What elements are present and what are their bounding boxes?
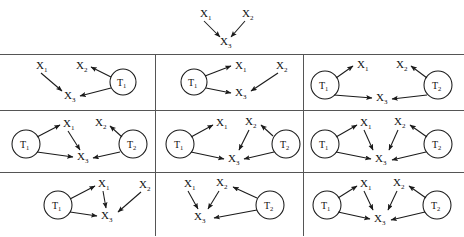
panel-2-1-label-t1: T1 xyxy=(20,139,29,151)
panel-2-3-edge-t2-x3 xyxy=(392,152,426,160)
figure-root: X1 X2 X3 X1 X2 X3 T1 xyxy=(0,0,464,236)
panel-2-2-edge-t2-x2 xyxy=(261,125,273,136)
panel-3-2-node-x2: X2 xyxy=(216,176,228,191)
panel-2-1-node-x1: X1 xyxy=(63,117,75,132)
panel-1-2-edge-t1-x3 xyxy=(206,88,231,93)
panel-1-2-node-x1: X1 xyxy=(235,59,247,74)
header-graph: X1 X2 X3 xyxy=(200,7,254,50)
panel-1-1-node-x2: X2 xyxy=(76,59,88,74)
panel-3-1-node-x2: X2 xyxy=(139,178,151,193)
panel-3-3-node-x3: X3 xyxy=(374,212,386,227)
panel-2-1-label-t2: T2 xyxy=(127,139,136,151)
panel-2-3: T1 T2 X1 X2 X3 xyxy=(311,115,452,167)
panel-1-3-label-t1: T1 xyxy=(319,80,328,92)
panel-3-3-edge-x1-x3 xyxy=(364,191,373,210)
panel-2-2-edge-t2-x3 xyxy=(244,152,274,159)
panel-3-2-edge-x1-x3 xyxy=(188,191,198,209)
panel-2-2-edge-t1-x1 xyxy=(191,125,213,137)
panel-2-1-node-x3: X3 xyxy=(77,150,89,165)
panel-2-3-edge-t1-x3 xyxy=(336,152,371,159)
panel-3-1-node-x3: X3 xyxy=(101,209,113,224)
header-node-x1: X1 xyxy=(200,7,212,22)
panel-2-1-edge-t2-x2 xyxy=(110,126,122,137)
panel-1-1-label-t1: T1 xyxy=(117,77,126,89)
panel-1-3: T1 T2 X1 X2 X3 xyxy=(311,58,452,106)
panel-3-3-edge-t1-x3 xyxy=(338,212,370,219)
panel-2-2-node-x1: X1 xyxy=(216,116,228,131)
diagram-canvas: X1 X2 X3 X1 X2 X3 T1 xyxy=(0,0,464,236)
panel-2-1: T1 T2 X1 X2 X3 xyxy=(12,116,147,165)
panel-1-3-edge-t2-x2 xyxy=(411,66,427,78)
panel-1-1-edge-t1-x2 xyxy=(91,67,111,77)
panel-3-1-edge-x2-x3 xyxy=(118,192,141,212)
panel-3-3: T1 T2 X1 X2 X3 xyxy=(313,176,451,227)
panel-2-1-node-x2: X2 xyxy=(95,116,107,131)
header-node-x3: X3 xyxy=(220,35,232,50)
panel-3-2-edge-t2-x2 xyxy=(233,187,257,198)
panel-3-3-node-x2: X2 xyxy=(393,176,405,191)
panel-3-1: T1 X1 X2 X3 xyxy=(44,177,151,224)
panel-3-2-node-x1: X1 xyxy=(184,177,196,192)
panel-3-2-node-x3: X3 xyxy=(194,210,206,225)
panel-3-2: X1 X2 X3 T2 xyxy=(184,176,284,225)
panel-1-3-edge-t1-x3 xyxy=(334,95,372,98)
panel-2-2-edge-x2-x3 xyxy=(239,130,249,150)
panel-1-1-edge-t1-x3 xyxy=(80,88,111,96)
panel-3-1-edge-t1-x1 xyxy=(70,186,95,199)
panel-1-3-node-x1: X1 xyxy=(357,58,369,73)
panel-3-1-edge-t1-x3 xyxy=(70,212,97,216)
panel-3-2-edge-t2-x3 xyxy=(214,210,257,218)
panel-2-2-edge-t1-x3 xyxy=(191,152,224,159)
header-edge-x2-x3 xyxy=(231,21,245,37)
panel-3-2-edge-x2-x3 xyxy=(208,191,219,209)
panel-1-3-label-t2: T2 xyxy=(432,80,441,92)
panel-3-3-label-t1: T1 xyxy=(321,200,330,212)
panel-1-3-node-x2: X2 xyxy=(396,58,408,73)
panel-2-3-edge-t1-x1 xyxy=(336,125,357,137)
panel-2-1-edge-x1-x3 xyxy=(68,131,80,150)
panel-1-3-edge-t2-x3 xyxy=(392,95,427,99)
panel-2-3-node-x2: X2 xyxy=(394,115,406,130)
header-edge-x1-x3 xyxy=(204,21,220,37)
panel-1-2-label-t1: T1 xyxy=(188,77,197,89)
panel-2-3-edge-t2-x2 xyxy=(410,125,427,137)
panel-2-2: T1 T2 X1 X2 X3 xyxy=(166,115,300,167)
panel-1-3-node-x3: X3 xyxy=(376,91,388,106)
panel-2-2-label-t1: T1 xyxy=(174,139,183,151)
panel-1-1-node-x1: X1 xyxy=(36,59,48,74)
panel-2-3-node-x1: X1 xyxy=(360,116,372,131)
panel-3-3-edge-t2-x3 xyxy=(391,212,425,220)
panel-1-1: X1 X2 X3 T1 xyxy=(36,59,136,104)
panel-1-3-edge-t1-x1 xyxy=(336,66,353,78)
panel-3-1-label-t1: T1 xyxy=(52,200,61,212)
panel-2-3-label-t2: T2 xyxy=(432,139,441,151)
panel-1-2-edge-x2-x3 xyxy=(251,73,278,91)
panel-3-3-edge-x2-x3 xyxy=(388,191,397,210)
panel-3-3-label-t2: T2 xyxy=(431,200,440,212)
panel-1-2-edge-t1-x1 xyxy=(205,66,231,76)
panel-2-2-label-t2: T2 xyxy=(280,139,289,151)
header-node-x2: X2 xyxy=(242,7,254,22)
panel-1-2-node-x2: X2 xyxy=(276,59,288,74)
panel-1-2-node-x3: X3 xyxy=(235,86,247,101)
panel-3-1-node-x1: X1 xyxy=(98,177,110,192)
panel-2-3-edge-x2-x3 xyxy=(389,130,398,150)
panel-2-3-label-t1: T1 xyxy=(319,139,328,151)
panel-2-3-node-x3: X3 xyxy=(375,152,387,167)
grid-lines xyxy=(0,55,464,237)
panel-3-1-edge-x1-x3 xyxy=(103,191,106,208)
panel-3-3-edge-t2-x2 xyxy=(409,186,426,198)
panel-3-3-node-x1: X1 xyxy=(360,177,372,192)
panel-1-1-node-x3: X3 xyxy=(64,89,76,104)
panel-1-1-edge-x1-x3 xyxy=(41,73,62,91)
panel-2-2-node-x3: X3 xyxy=(228,152,240,167)
panel-2-1-edge-t1-x3 xyxy=(37,152,73,157)
panel-2-1-edge-t1-x1 xyxy=(37,125,60,137)
panel-2-1-edge-t2-x3 xyxy=(93,152,120,158)
panel-3-2-label-t2: T2 xyxy=(264,200,273,212)
panel-2-3-edge-x1-x3 xyxy=(364,130,373,150)
panel-3-3-edge-t1-x1 xyxy=(338,186,357,198)
panel-2-2-node-x2: X2 xyxy=(245,115,257,130)
panel-1-2: T1 X1 X2 X3 xyxy=(181,59,288,101)
